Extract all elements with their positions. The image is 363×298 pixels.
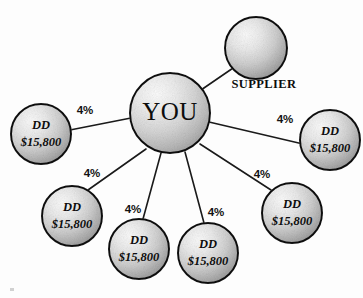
node-supplier[interactable]	[225, 17, 287, 79]
node-label-dd-bottom-right-center-name: DD	[198, 237, 217, 251]
node-label-dd-left-amount: $15,800	[20, 135, 62, 149]
node-label-dd-lower-left-name: DD	[62, 200, 81, 214]
node-label-dd-bottom-left-center-amount: $15,800	[118, 250, 160, 264]
node-outer-label-supplier: SUPPLIER	[231, 77, 297, 91]
edge-dd-right	[209, 122, 303, 144]
node-label-dd-left-name: DD	[31, 118, 50, 132]
edge-percent-dd-lower-left: 4%	[84, 167, 101, 179]
node-label-dd-lower-right-name: DD	[282, 197, 301, 211]
network-diagram: YOUSUPPLIERDD$15,8004%DD$15,8004%DD$15,8…	[0, 0, 363, 298]
edge-percent-dd-left: 4%	[77, 104, 94, 116]
node-label-dd-lower-left-amount: $15,800	[51, 217, 93, 231]
edge-dd-left	[70, 118, 131, 130]
node-label-dd-right-name: DD	[320, 124, 339, 138]
node-label-dd-bottom-left-center-name: DD	[129, 233, 148, 247]
edge-percent-dd-right: 4%	[277, 113, 294, 125]
nodes-group	[11, 17, 360, 283]
edge-dd-bottom-left-center	[143, 153, 161, 219]
diagram-canvas: YOUSUPPLIERDD$15,8004%DD$15,8004%DD$15,8…	[0, 0, 363, 298]
node-label-you: YOU	[142, 98, 198, 125]
scan-artifact	[10, 288, 14, 291]
edge-percent-dd-lower-right: 4%	[254, 168, 271, 180]
edge-percent-dd-bottom-right-center: 4%	[208, 206, 225, 218]
node-label-dd-right-amount: $15,800	[309, 141, 351, 155]
edge-dd-lower-right	[200, 144, 271, 190]
edge-dd-bottom-right-center	[185, 152, 204, 223]
node-label-dd-lower-right-amount: $15,800	[271, 214, 313, 228]
node-label-dd-bottom-right-center-amount: $15,800	[187, 254, 229, 268]
edge-percent-dd-bottom-left-center: 4%	[125, 203, 142, 215]
